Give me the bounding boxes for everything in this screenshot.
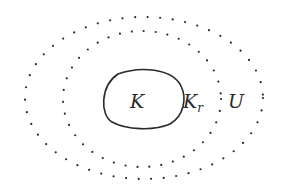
label-k: K bbox=[129, 90, 146, 112]
label-u: U bbox=[228, 90, 245, 112]
nested-sets-diagram: K Kr U bbox=[0, 0, 281, 184]
label-kr: Kr bbox=[182, 90, 204, 115]
label-kr-subscript: r bbox=[197, 101, 204, 115]
